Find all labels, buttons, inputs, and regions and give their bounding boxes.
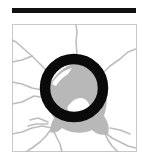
top-divider-bar	[12, 8, 136, 13]
optic-disc-diagram: Optic disc with ring overlay	[12, 24, 137, 152]
